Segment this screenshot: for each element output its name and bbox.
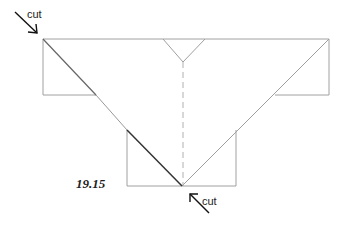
diagonal-mid — [96, 95, 127, 130]
bottom-rect-outline — [127, 130, 236, 186]
folding-diagram — [0, 0, 345, 227]
cut-label-bottom: cut — [202, 195, 217, 207]
cut-line-lower — [127, 130, 182, 186]
inner-v-fold — [163, 39, 205, 62]
cut-line-upper — [43, 39, 96, 95]
right-diagonal — [182, 39, 329, 186]
cut-label-top: cut — [27, 8, 42, 20]
figure-number: 19.15 — [76, 176, 105, 192]
